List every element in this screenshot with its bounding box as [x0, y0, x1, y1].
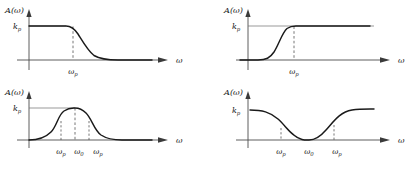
gain-label: kp	[232, 22, 241, 33]
tick-label-cutoff: ωp	[68, 67, 78, 78]
tick-label-cutoff: ωp	[289, 67, 299, 78]
y-axis-label: A(ω)	[4, 5, 24, 15]
tick-label-lower-cutoff: ωp	[276, 147, 286, 158]
tick-label-upper-cutoff: ωp	[332, 147, 342, 158]
tick-label-center-frequency: ω0	[304, 147, 314, 157]
x-axis-label: ω	[176, 56, 183, 65]
x-axis-label: ω	[176, 136, 183, 145]
tick-label-center-frequency: ω0	[74, 147, 84, 157]
response-curve	[29, 26, 152, 60]
y-axis-label: A(ω)	[223, 87, 243, 97]
filter-response-figure: A(ω) kp ω ωp A(ω) kp ω ωp	[0, 0, 420, 170]
response-curve	[250, 109, 374, 140]
y-axis-arrow-icon	[26, 9, 31, 17]
x-axis-arrow-icon	[158, 57, 168, 63]
x-axis-arrow-icon	[380, 57, 390, 63]
high-pass-filter-panel: A(ω) kp ω ωp	[210, 0, 420, 85]
band-pass-filter-panel: A(ω) kp ω ωp ω0 ωp	[0, 85, 210, 170]
y-axis-label: A(ω)	[4, 87, 24, 97]
x-axis-label: ω	[398, 136, 405, 145]
x-axis-arrow-icon	[380, 137, 390, 143]
gain-label: kp	[13, 104, 22, 115]
gain-label: kp	[232, 106, 241, 117]
band-stop-filter-panel: A(ω) kp ω ωp ω0 ωp	[210, 85, 420, 170]
y-axis-arrow-icon	[26, 91, 31, 99]
tick-label-upper-cutoff: ωp	[93, 147, 103, 158]
x-axis-arrow-icon	[158, 137, 168, 143]
gain-label: kp	[13, 22, 22, 33]
y-axis-arrow-icon	[245, 91, 250, 99]
low-pass-filter-panel: A(ω) kp ω ωp	[0, 0, 210, 85]
response-curve	[29, 108, 152, 140]
y-axis-label: A(ω)	[223, 5, 243, 15]
tick-label-lower-cutoff: ωp	[56, 147, 66, 158]
response-curve	[240, 26, 370, 60]
y-axis-arrow-icon	[245, 9, 250, 17]
x-axis-label: ω	[398, 56, 405, 65]
